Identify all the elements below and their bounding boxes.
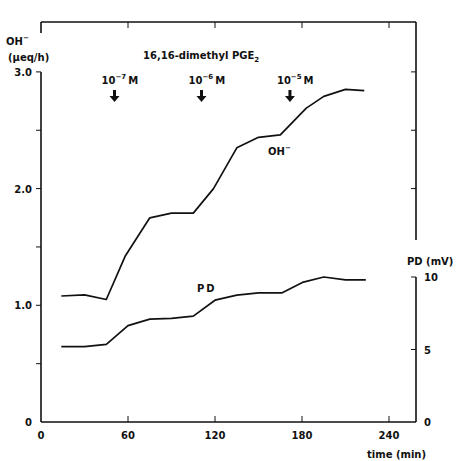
chart: 06012018024001.02.03.00510 OH− (μeq/h) P… [0, 0, 470, 461]
dose-label: 10−6M [189, 73, 226, 86]
dose-label: 10−7M [102, 73, 139, 86]
arrow-down-icon [110, 96, 120, 102]
y-left-tick-label: 1.0 [14, 300, 32, 311]
series-labels: OH−PD [197, 144, 291, 294]
x-tick-label: 120 [205, 430, 226, 441]
data-series [61, 89, 366, 346]
y-right-tick-label: 0 [424, 417, 431, 428]
dose-arrow-annotation: 10−5M [277, 73, 314, 102]
dose-annotations: 10−7M10−6M10−5M [102, 73, 314, 102]
axis-tick-labels: 06012018024001.02.03.00510 [14, 67, 438, 441]
plot-frame [41, 22, 416, 422]
y-left-tick-label: 3.0 [14, 67, 32, 78]
y-left-tick-label: 0 [25, 417, 32, 428]
x-tick-label: 240 [379, 430, 400, 441]
x-tick-label: 0 [38, 430, 45, 441]
x-tick-label: 60 [121, 430, 135, 441]
dose-arrow-annotation: 10−6M [189, 73, 226, 102]
y-right-tick-label: 5 [424, 345, 431, 356]
axis-ticks [36, 22, 416, 422]
y-right-label: PD (mV) [407, 256, 453, 267]
dose-label: 10−5M [277, 73, 314, 86]
series-label-oh: OH− [268, 144, 291, 157]
y-left-label-line2: (μeq/h) [8, 52, 49, 63]
x-tick-label: 180 [292, 430, 313, 441]
x-axis-label: time (min) [367, 449, 426, 460]
series-label-pd: PD [197, 283, 217, 294]
chart-title: 16,16-dimethyl PGE2 [143, 50, 259, 64]
series-oh-line [61, 89, 364, 299]
dose-arrow-annotation: 10−7M [102, 73, 139, 102]
y-left-label-line1: OH− [6, 34, 29, 47]
y-right-tick-label: 10 [424, 272, 438, 283]
y-left-tick-label: 2.0 [14, 184, 32, 195]
arrow-down-icon [197, 96, 207, 102]
arrow-down-icon [285, 96, 295, 102]
